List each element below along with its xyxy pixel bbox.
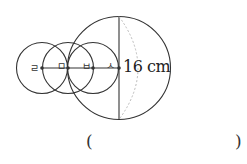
point-dot xyxy=(117,66,121,70)
point-dot xyxy=(91,66,95,70)
answer-close-paren: ) xyxy=(235,131,242,151)
measurement-label: 16 cm xyxy=(123,57,170,76)
answer-blank[interactable] xyxy=(98,133,228,151)
point-dot xyxy=(40,66,44,70)
point-dot xyxy=(66,66,70,70)
answer-open-paren: ( xyxy=(86,131,93,151)
label-bieup: ㅂ xyxy=(82,58,91,73)
label-mieum: ㅁ xyxy=(57,58,66,73)
label-rieul: ㄹ xyxy=(30,60,39,75)
label-siot: ㅅ xyxy=(106,57,115,72)
